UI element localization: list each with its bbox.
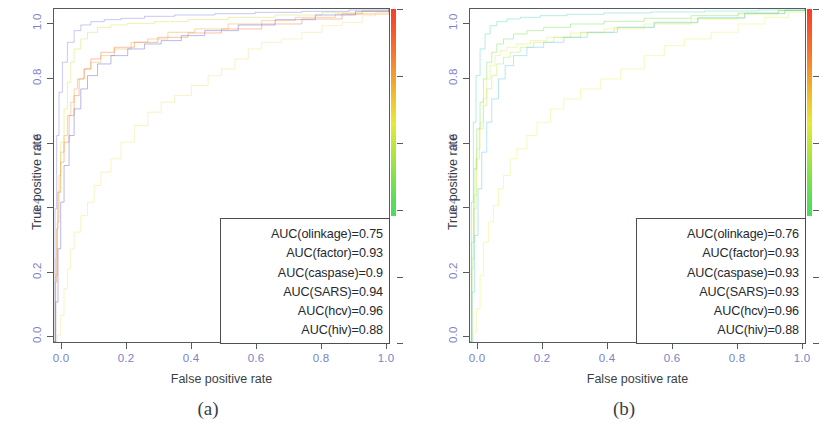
legend-item: AUC(factor)=0.93 xyxy=(221,244,389,263)
panel-caption-a: (a) xyxy=(0,398,416,420)
legend-item: AUC(factor)=0.93 xyxy=(637,244,805,263)
colorbar-b xyxy=(807,9,812,216)
xtick-label: 0.4 xyxy=(599,352,616,364)
ytick-label: 0.0 xyxy=(447,329,459,343)
xtick-label: 0.2 xyxy=(118,352,135,364)
x-axis-title: False positive rate xyxy=(53,372,390,386)
xtick-label: 0.0 xyxy=(53,352,70,364)
y-axis-title: True positive rate xyxy=(446,82,460,282)
xtick-label: 0.6 xyxy=(248,352,265,364)
legend-item: AUC(hiv)=0.88 xyxy=(221,321,389,340)
xtick-label: 0.0 xyxy=(469,352,486,364)
panel-b: 0.0 0.2 0.4 0.6 0.8 1.0 0.0 0.2 0.4 0.6 … xyxy=(416,0,832,433)
legend-item: AUC(olinkage)=0.75 xyxy=(221,225,389,244)
legend-item: AUC(caspase)=0.9 xyxy=(221,264,389,283)
legend-item: AUC(hiv)=0.88 xyxy=(637,321,805,340)
legend-box-a: AUC(olinkage)=0.75 AUC(factor)=0.93 AUC(… xyxy=(220,218,390,344)
xtick-label: 0.2 xyxy=(534,352,551,364)
panel-caption-b: (b) xyxy=(416,398,832,420)
ytick-label: 1.0 xyxy=(31,16,43,30)
legend-item: AUC(SARS)=0.94 xyxy=(221,283,389,302)
xtick-label: 1.0 xyxy=(794,352,811,364)
roc-figure: 0.0 0.2 0.4 0.6 0.8 1.0 0.0 0.2 0.4 0.6 … xyxy=(0,0,832,433)
ytick-label: 1.0 xyxy=(447,16,459,30)
legend-item: AUC(olinkage)=0.76 xyxy=(637,225,805,244)
colorbar-a xyxy=(391,9,396,216)
xtick-label: 0.8 xyxy=(313,352,330,364)
xtick-label: 0.4 xyxy=(183,352,200,364)
xtick-label: 1.0 xyxy=(378,352,395,364)
legend-item: AUC(SARS)=0.93 xyxy=(637,283,805,302)
legend-box-b: AUC(olinkage)=0.76 AUC(factor)=0.93 AUC(… xyxy=(636,218,806,344)
xtick-label: 0.6 xyxy=(664,352,681,364)
legend-item: AUC(caspase)=0.93 xyxy=(637,264,805,283)
ytick-label: 0.0 xyxy=(31,329,43,343)
xtick-label: 0.8 xyxy=(729,352,746,364)
panel-a: 0.0 0.2 0.4 0.6 0.8 1.0 0.0 0.2 0.4 0.6 … xyxy=(0,0,416,433)
y-axis-title: True positive rate xyxy=(30,82,44,282)
legend-item: AUC(hcv)=0.96 xyxy=(221,302,389,321)
legend-item: AUC(hcv)=0.96 xyxy=(637,302,805,321)
x-axis-title: False positive rate xyxy=(469,372,806,386)
